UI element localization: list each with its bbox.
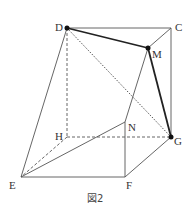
point-G-dot: [169, 135, 174, 140]
label-M: M: [152, 48, 162, 60]
edge-NM: [125, 48, 148, 122]
label-E: E: [9, 179, 16, 191]
label-F: F: [126, 179, 132, 191]
edge-DM: [67, 28, 148, 48]
geometry-figure: D C M N H G E F 図2: [0, 0, 194, 217]
label-C: C: [175, 21, 182, 33]
edge-HE: [21, 137, 67, 177]
label-D: D: [55, 21, 63, 33]
figure-caption: 図2: [87, 193, 103, 204]
edge-EN: [21, 122, 125, 177]
edge-DE: [21, 28, 67, 177]
edge-FG: [125, 137, 171, 177]
point-M-dot: [146, 46, 151, 51]
dotted-edges: [67, 28, 171, 137]
label-H: H: [55, 130, 63, 142]
edge-MG: [148, 48, 171, 137]
point-labels: D C M N H G E F: [9, 21, 182, 191]
point-D-dot: [65, 26, 70, 31]
edge-DG-diagonal: [67, 28, 171, 137]
edge-CM: [148, 28, 171, 48]
label-N: N: [128, 121, 136, 133]
label-G: G: [174, 135, 182, 147]
